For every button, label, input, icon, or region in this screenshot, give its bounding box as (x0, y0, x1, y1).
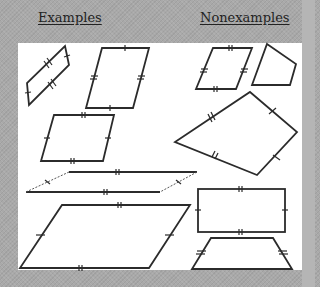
nonexample-shape-1 (196, 45, 252, 92)
nonexample-shape-2 (252, 44, 296, 85)
example-shape-2 (86, 45, 149, 111)
example-shape-3 (41, 112, 114, 164)
example-shape-5 (20, 202, 190, 271)
nonexample-shape-3 (175, 92, 297, 175)
nonexample-shape-5 (192, 238, 292, 269)
shapes-canvas (0, 0, 315, 287)
example-shape-4 (26, 169, 197, 195)
nonexample-shape-4 (195, 186, 288, 235)
example-shape-1 (25, 46, 70, 105)
